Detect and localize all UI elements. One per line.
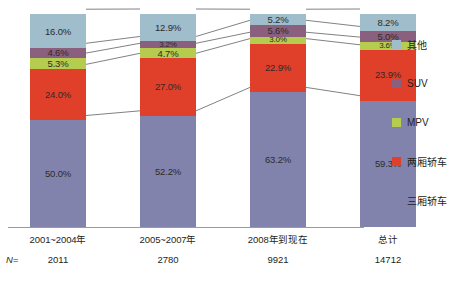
segment-value-label: 12.9% — [155, 23, 181, 33]
bar-segment-其他: 5.2% — [250, 14, 306, 25]
segment-value-label: 5.3% — [48, 59, 69, 69]
bar-segment-其他: 12.9% — [140, 14, 196, 41]
bar-2: 12.9%3.2%4.7%27.0%52.2% — [140, 14, 196, 227]
connector-line — [196, 32, 250, 43]
sample-size-value-2: 2780 — [113, 254, 223, 265]
segment-value-label: 16.0% — [45, 27, 71, 37]
segment-value-label: 27.0% — [155, 82, 181, 92]
plot-area: 16.0%4.6%5.3%24.0%50.0%12.9%3.2%4.7%27.0… — [0, 0, 372, 232]
connector-line — [306, 39, 360, 45]
sample-size-row: N= 20112780992114712 — [0, 254, 372, 274]
stacked-bar-chart: 16.0%4.6%5.3%24.0%50.0%12.9%3.2%4.7%27.0… — [0, 0, 459, 289]
bar-segment-三厢轿车: 50.0% — [30, 120, 86, 227]
legend-swatch-icon — [392, 196, 401, 205]
segment-value-label: 63.2% — [265, 155, 291, 165]
sample-size-value-3: 9921 — [223, 254, 333, 265]
segment-value-label: 52.2% — [155, 167, 181, 177]
category-label-2: 2005~2007年 — [113, 232, 223, 246]
connector-line — [86, 53, 140, 64]
bar-segment-两厢轿车: 22.9% — [250, 44, 306, 93]
segment-value-label: 8.2% — [378, 18, 399, 28]
segment-value-label: 5.2% — [268, 15, 289, 25]
bar-segment-其他: 8.2% — [360, 14, 416, 31]
connector-line — [196, 87, 250, 110]
bar-1: 16.0%4.6%5.3%24.0%50.0% — [30, 14, 86, 227]
category-label-4: 总计 — [333, 232, 443, 246]
legend-item-两厢轿车[interactable]: 两厢轿车 — [392, 155, 459, 167]
segment-value-label: 50.0% — [45, 169, 71, 179]
legend-swatch-icon — [392, 40, 401, 49]
bar-segment-两厢轿车: 27.0% — [140, 58, 196, 116]
legend-swatch-icon — [392, 118, 401, 127]
connector-line — [196, 20, 250, 36]
segment-value-label: 4.6% — [48, 48, 69, 58]
legend-swatch-icon — [392, 157, 401, 166]
bar-segment-三厢轿车: 63.2% — [250, 92, 306, 227]
connector-line — [86, 111, 140, 116]
sample-size-value-4: 14712 — [333, 254, 443, 265]
bar-segment-MPV: 4.7% — [140, 48, 196, 58]
connector-line — [196, 39, 250, 54]
connector-line — [86, 43, 140, 53]
connector-line — [306, 20, 360, 26]
segment-value-label: 24.0% — [45, 90, 71, 100]
legend-label: 其他 — [407, 37, 427, 52]
baseline-axis — [8, 227, 364, 228]
bar-segment-三厢轿车: 52.2% — [140, 116, 196, 227]
bar-3: 5.2%5.6%3.0%22.9%63.2% — [250, 14, 306, 227]
sample-size-value-1: 2011 — [3, 254, 113, 265]
bar-segment-两厢轿车: 24.0% — [30, 69, 86, 120]
legend: 其他SUVMPV两厢轿车三厢轿车 — [392, 38, 459, 233]
legend-item-SUV[interactable]: SUV — [392, 77, 459, 89]
legend-label: MPV — [407, 117, 429, 128]
legend-item-其他[interactable]: 其他 — [392, 38, 459, 50]
bar-segment-其他: 16.0% — [30, 14, 86, 48]
legend-label: 三厢轿车 — [407, 193, 447, 208]
category-label-3: 2008年到现在 — [223, 232, 333, 246]
bar-segment-SUV: 4.6% — [30, 48, 86, 58]
bar-segment-MPV: 5.3% — [30, 58, 86, 69]
connector-line — [306, 87, 360, 95]
legend-label: SUV — [407, 78, 428, 89]
category-labels: 2001~2004年2005~2007年2008年到现在总计 — [0, 232, 372, 254]
segment-value-label: 4.7% — [158, 49, 179, 59]
legend-item-三厢轿车[interactable]: 三厢轿车 — [392, 194, 459, 206]
connector-line — [86, 36, 140, 43]
legend-label: 两厢轿车 — [407, 154, 447, 169]
legend-swatch-icon — [392, 79, 401, 88]
connector-line — [306, 32, 360, 37]
category-label-1: 2001~2004年 — [3, 232, 113, 246]
legend-item-MPV[interactable]: MPV — [392, 116, 459, 128]
segment-value-label: 22.9% — [265, 63, 291, 73]
